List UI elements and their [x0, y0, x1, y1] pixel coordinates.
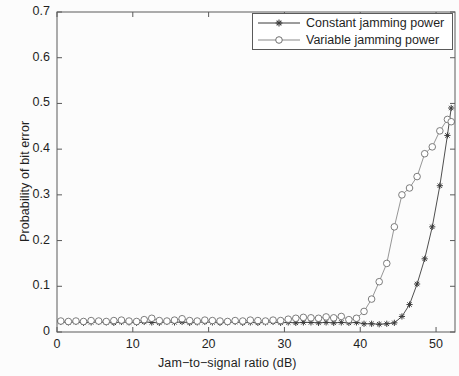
series-circle — [57, 116, 454, 325]
star-marker-icon — [256, 16, 302, 30]
y-tick-label: 0.1 — [0, 278, 50, 292]
x-axis-title: Jam−to−signal ratio (dB) — [158, 356, 297, 370]
y-tick-label: 0.5 — [0, 95, 50, 109]
legend[interactable]: Constant jamming power Variable jamming … — [252, 13, 453, 50]
legend-entry-constant: Constant jamming power — [256, 15, 452, 32]
x-tick-label: 40 — [340, 337, 380, 351]
y-tick-label: 0.7 — [0, 4, 50, 18]
y-tick-label: 0 — [0, 324, 50, 338]
x-tick-label: 20 — [189, 337, 229, 351]
circle-marker-icon — [256, 33, 302, 47]
legend-label-variable: Variable jamming power — [306, 33, 439, 47]
figure-bit-error-vs-jsr: 00.10.20.30.40.50.60.7 01020304050 Proba… — [0, 0, 459, 376]
x-tick-label: 0 — [37, 337, 77, 351]
axes-frame — [57, 12, 455, 332]
y-axis-title: Probability of bit error — [18, 121, 32, 242]
axis-ticks — [57, 12, 455, 332]
x-tick-label: 30 — [264, 337, 304, 351]
data-series-layer — [57, 105, 454, 327]
legend-label-constant: Constant jamming power — [306, 16, 444, 30]
plot-canvas — [0, 0, 459, 376]
legend-entry-variable: Variable jamming power — [256, 32, 452, 49]
x-tick-label: 10 — [113, 337, 153, 351]
series-star — [58, 105, 455, 327]
x-tick-label: 50 — [416, 337, 456, 351]
y-tick-label: 0.6 — [0, 50, 50, 64]
